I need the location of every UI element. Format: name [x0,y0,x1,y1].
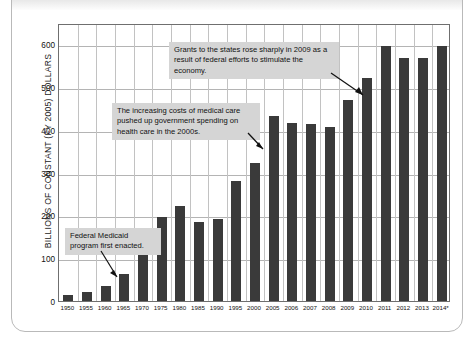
x-axis-tick-label: 1985 [191,304,205,311]
x-axis-tick-label: 2011 [378,304,391,311]
bar-2010 [362,78,372,301]
x-axis-tick-label: 1990 [210,304,224,311]
x-axis-tick-label: 2009 [340,304,354,311]
x-axis-tick-label: 2006 [284,304,298,311]
x-axis-tick-label: 1965 [116,304,130,311]
bar-2008 [325,127,335,301]
annotation-grants: Grants to the states rose sharply in 200… [169,42,339,79]
bar-1980 [175,206,185,301]
bar-1990 [213,219,223,301]
bar-1985 [194,222,204,301]
x-axis-tick-label: 2010 [359,304,373,311]
x-axis-tick-label: 1960 [98,304,112,311]
bar-2009 [343,100,353,301]
page-top-shading [12,0,462,10]
bar-2012 [399,58,409,301]
bar-2005 [269,116,279,301]
bar-2007 [306,124,316,301]
bar-1995 [231,181,241,301]
bar-1960 [101,286,111,301]
chart-page: BILLIONS OF CONSTANT (FY 2005) DOLLARS 0… [0,0,474,339]
y-axis-tick-label: 0 [29,298,55,307]
x-axis-ticks: 1950195519601965197019751980198519901995… [58,304,450,318]
x-axis-tick-label: 2005 [266,304,280,311]
y-axis-tick-label: 200 [29,212,55,221]
bar-2013 [418,58,428,301]
y-axis-tick-label: 500 [29,84,55,93]
y-axis-tick-label: 100 [29,255,55,264]
y-axis-ticks: 0100200300400500600 [26,24,55,302]
x-axis-tick-label: 1970 [135,304,149,311]
bar-1970 [138,249,148,301]
x-axis-tick-label: 1950 [60,304,74,311]
x-axis-tick-label: 2007 [303,304,317,311]
x-axis-tick-label: 1955 [79,304,93,311]
x-axis-tick-label: 1995 [228,304,242,311]
bar-2014 [437,46,447,301]
x-axis-tick-label: 2012 [396,304,410,311]
bar-1955 [82,292,92,301]
y-axis-tick-label: 300 [29,169,55,178]
bar-1950 [63,295,73,301]
x-axis-tick-label: 2008 [322,304,336,311]
y-axis-tick-label: 600 [29,41,55,50]
bar-1965 [119,274,129,301]
bar-2011 [381,46,391,301]
x-axis-tick-label: 1975 [154,304,168,311]
annotation-medical-costs: The increasing costs of medical care pus… [112,103,260,140]
bar-2006 [287,123,297,301]
x-axis-tick-label: 2014* [433,304,449,311]
y-axis-tick-label: 400 [29,126,55,135]
bar-2000 [250,163,260,301]
x-axis-tick-label: 2000 [247,304,261,311]
x-axis-tick-label: 2013 [415,304,429,311]
x-axis-tick-label: 1980 [172,304,186,311]
annotation-medicaid: Federal Medicaid program first enacted. [65,228,161,255]
